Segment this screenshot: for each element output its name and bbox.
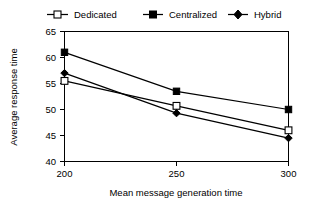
chart-container: Dedicated Centralized Hybrid — [0, 0, 310, 207]
line-chart: Dedicated Centralized Hybrid — [0, 0, 310, 207]
open-square-marker — [61, 78, 68, 85]
filled-diamond-marker — [173, 109, 180, 116]
open-square-marker — [285, 127, 292, 134]
filled-square-marker — [285, 106, 291, 112]
legend-item-hybrid[interactable]: Hybrid — [228, 9, 281, 20]
y-tick-label-65: 65 — [45, 26, 56, 37]
y-axis: 65 60 55 50 45 40 Average response time — [8, 26, 65, 167]
legend-label-dedicated: Dedicated — [74, 9, 117, 20]
x-tick-label-300: 300 — [281, 168, 297, 179]
x-axis: 200 250 300 Mean message generation time — [57, 162, 297, 199]
series-dedicated — [61, 78, 292, 134]
x-tick-label-200: 200 — [57, 168, 73, 179]
series-line-centralized — [65, 52, 289, 109]
open-square-marker — [173, 102, 180, 109]
legend-item-dedicated[interactable]: Dedicated — [47, 9, 117, 20]
chart-legend: Dedicated Centralized Hybrid — [47, 9, 281, 20]
filled-diamond-marker — [61, 69, 68, 76]
filled-square-icon — [150, 11, 157, 18]
plot-border — [65, 32, 289, 162]
filled-square-marker — [173, 88, 179, 94]
plot-frame — [65, 32, 289, 162]
x-axis-title: Mean message generation time — [109, 187, 242, 198]
y-tick-label-55: 55 — [45, 78, 56, 89]
filled-square-marker — [61, 49, 67, 55]
x-tick-label-250: 250 — [169, 168, 185, 179]
y-axis-title: Average response time — [8, 48, 19, 146]
open-square-icon — [54, 11, 61, 18]
filled-diamond-marker — [285, 134, 292, 141]
data-series-layer — [61, 49, 292, 142]
filled-diamond-icon — [234, 10, 242, 19]
legend-item-centralized[interactable]: Centralized — [143, 9, 217, 20]
y-tick-label-40: 40 — [45, 156, 56, 167]
legend-label-hybrid: Hybrid — [254, 9, 281, 20]
y-tick-label-60: 60 — [45, 52, 56, 63]
y-tick-label-45: 45 — [45, 130, 56, 141]
y-tick-label-50: 50 — [45, 104, 56, 115]
legend-label-centralized: Centralized — [169, 9, 217, 20]
